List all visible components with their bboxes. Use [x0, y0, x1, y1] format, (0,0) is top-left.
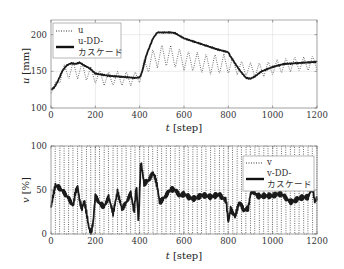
legend-label-v: v	[266, 157, 272, 167]
bottom-plot: 020040060080010001200050100 v v-DD- カスケー…	[20, 141, 328, 261]
top-xlabel: t[step]	[166, 122, 202, 133]
y-tick-label: 100	[31, 141, 47, 151]
x-tick-label: 400	[132, 236, 148, 246]
x-tick-label: 1200	[306, 236, 328, 246]
y-tick-label: 200	[31, 30, 47, 40]
bottom-ylabel: v[%]	[20, 177, 31, 203]
x-tick-label: 400	[132, 110, 148, 120]
legend-label-cascade: カスケード	[267, 179, 312, 189]
x-tick-label: 800	[220, 236, 236, 246]
top-ylabel: u[mm]	[20, 48, 31, 84]
x-tick-label: 0	[48, 236, 53, 246]
bottom-legend: v v-DD- カスケード	[243, 156, 314, 191]
x-tick-label: 200	[87, 236, 103, 246]
x-tick-label: 600	[176, 110, 192, 120]
x-tick-label: 800	[220, 110, 236, 120]
x-tick-label: 600	[176, 236, 192, 246]
legend-label-v-dd: v-DD-	[266, 168, 291, 178]
legend-label-cascade: カスケード	[78, 47, 123, 57]
top-plot: 020040060080010001200100150200 u u-DD- カ…	[20, 20, 328, 133]
top-legend: u u-DD- カスケード	[53, 23, 123, 58]
y-tick-label: 150	[31, 66, 47, 76]
x-tick-label: 0	[48, 110, 53, 120]
x-tick-label: 200	[87, 110, 103, 120]
bottom-xlabel: t[step]	[166, 250, 202, 261]
figure: 020040060080010001200100150200 u u-DD- カ…	[0, 0, 344, 269]
x-tick-label: 1000	[262, 236, 284, 246]
legend-label-u-dd: u-DD-	[78, 36, 103, 46]
x-tick-label: 1000	[262, 110, 284, 120]
legend-label-u: u	[78, 25, 84, 35]
y-tick-label: 0	[42, 229, 47, 239]
y-tick-label: 100	[31, 103, 47, 113]
y-tick-label: 50	[36, 185, 47, 195]
x-tick-label: 1200	[306, 110, 328, 120]
